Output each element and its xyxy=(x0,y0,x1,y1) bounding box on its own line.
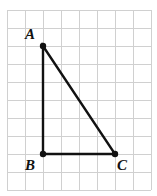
vertex-dot-a xyxy=(40,43,46,49)
vertex-dot-b xyxy=(40,151,46,157)
geometry-figure: ABC xyxy=(0,0,157,196)
vertex-label-c: C xyxy=(117,157,128,173)
vertex-label-b: B xyxy=(24,157,35,173)
vertex-label-a: A xyxy=(24,26,35,42)
triangle-diagram-canvas: ABC xyxy=(0,0,157,196)
